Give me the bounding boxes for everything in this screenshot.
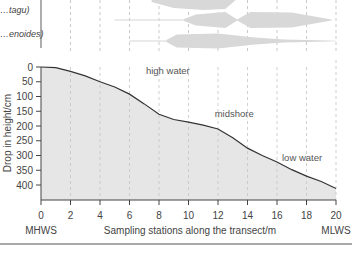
x-end-label-right: MLWS [321,225,351,236]
y-tick-label-300: 300 [16,150,33,161]
species-label-2: …enoides) [0,29,44,39]
kite-shape-2 [166,34,336,49]
x-tick-label-12: 12 [212,210,224,221]
x-axis-title: Sampling stations along the transect/m [104,225,276,236]
y-tick-label-100: 100 [16,91,33,102]
x-tick-label-4: 4 [97,210,103,221]
x-end-label-left: MHWS [25,225,57,236]
y-tick-label-250: 250 [16,135,33,146]
annotation-low-water: low water [282,152,322,163]
y-tick-label-150: 150 [16,106,33,117]
y-axis-title: Drop in height/cm [2,94,13,172]
y-tick-label-400: 400 [16,180,33,191]
x-tick-label-20: 20 [330,210,342,221]
annotation-high-water: high water [146,65,190,76]
x-tick-label-6: 6 [127,210,133,221]
annotation-midshore: midshore [215,108,254,119]
x-tick-label-0: 0 [38,210,44,221]
x-tick-label-2: 2 [68,210,74,221]
x-ticks: 02468101214161820 [38,200,342,221]
kite-shape-1 [184,12,332,28]
x-tick-label-14: 14 [242,210,254,221]
y-tick-label-200: 200 [16,121,33,132]
species-label-1: …tagu) [0,5,30,15]
kite-shape-0 [152,0,236,10]
species-kite-diagram [115,0,336,49]
y-ticks: 050100150200250300350400 [16,62,41,191]
x-tick-label-8: 8 [156,210,162,221]
y-tick-label-0: 0 [27,62,33,73]
y-tick-label-350: 350 [16,165,33,176]
x-tick-label-18: 18 [301,210,313,221]
x-tick-label-16: 16 [271,210,283,221]
y-tick-label-50: 50 [22,76,34,87]
x-tick-label-10: 10 [183,210,195,221]
zonation-chart: …tagu) …enoides) 05010015020025030035040… [0,0,352,267]
